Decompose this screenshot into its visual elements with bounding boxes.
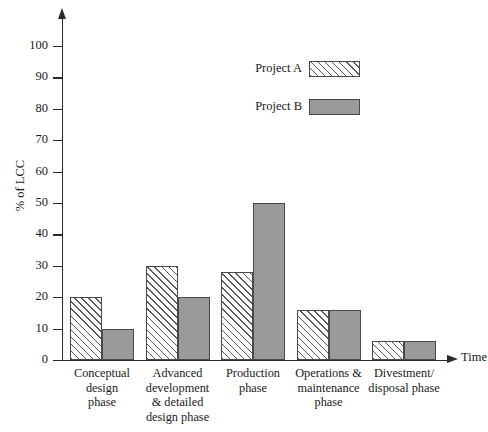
x-axis-category-label: Operations & maintenance phase [292, 366, 366, 410]
y-axis-tick-label: 30 [36, 257, 49, 274]
y-axis-tick: 10 [53, 329, 62, 330]
x-axis-category-label: Production phase [216, 366, 290, 395]
y-axis-tick: 90 [53, 77, 62, 78]
bar-project-a [70, 297, 102, 360]
bar-group [146, 18, 210, 360]
y-axis-tick-label: 60 [36, 163, 49, 180]
y-axis-tick: 0 [53, 360, 62, 361]
y-axis-tick-label: 20 [36, 288, 49, 305]
y-axis-tick: 50 [53, 203, 62, 204]
y-axis-tick-label: 80 [36, 100, 49, 117]
y-axis-tick: 100 [53, 46, 62, 47]
bar-project-a [146, 266, 178, 360]
bar-project-a [372, 341, 404, 360]
y-axis-tick-label: 0 [42, 351, 48, 368]
x-axis-title: Time [461, 350, 487, 365]
y-axis-tick-label: 40 [36, 225, 49, 242]
legend-swatch-project-b [309, 99, 360, 115]
bar-project-b [404, 341, 436, 360]
legend-item-project-b: Project B [236, 98, 360, 115]
y-axis-tick: 80 [53, 109, 62, 110]
legend-label-project-a: Project A [255, 61, 302, 76]
legend-label-project-b: Project B [255, 99, 302, 114]
bar-project-b [178, 297, 210, 360]
legend-item-project-a: Project A [236, 60, 360, 77]
bar-group [70, 18, 134, 360]
bar-project-b [329, 310, 361, 360]
y-axis-tick-label: 90 [36, 68, 49, 85]
bar-project-b [102, 329, 134, 360]
y-axis-title: % of LCC [13, 144, 28, 228]
bar-project-a [297, 310, 329, 360]
bar-project-b [253, 203, 285, 360]
y-axis-tick: 30 [53, 266, 62, 267]
legend-swatch-project-a [309, 61, 360, 77]
x-axis-category-label: Divestment/ disposal phase [367, 366, 441, 395]
y-axis-tick-label: 70 [36, 131, 49, 148]
bar-chart: 0102030405060708090100 % of LCC Time Con… [0, 0, 488, 432]
y-axis-tick-label: 50 [36, 194, 49, 211]
y-axis-tick: 20 [53, 297, 62, 298]
y-axis-tick-label: 100 [29, 37, 48, 54]
bar-project-a [221, 272, 253, 360]
y-axis-tick-label: 10 [36, 320, 49, 337]
bar-group [372, 18, 436, 360]
x-axis-category-label: Conceptual design phase [65, 366, 139, 410]
chart-legend: Project A Project B [236, 60, 360, 136]
y-axis-tick: 40 [53, 234, 62, 235]
x-axis-category-label: Advanced development & detailed design p… [141, 366, 215, 424]
y-axis-tick: 60 [53, 172, 62, 173]
y-axis-tick: 70 [53, 140, 62, 141]
